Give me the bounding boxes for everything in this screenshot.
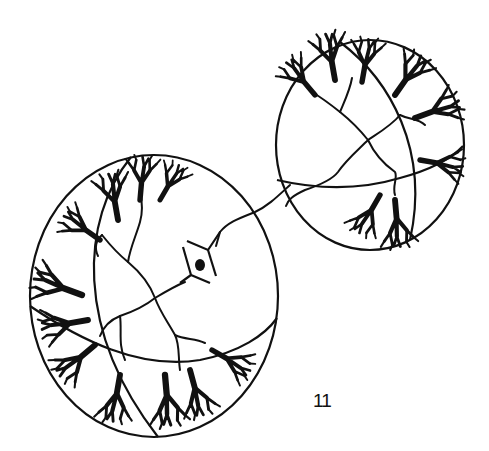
right-sphere [272,28,468,251]
left-sphere [25,153,290,437]
eye-symbol-icon [180,232,220,283]
figure-number-label: 11 [313,390,331,412]
diagram-figure: 11 [0,0,489,451]
